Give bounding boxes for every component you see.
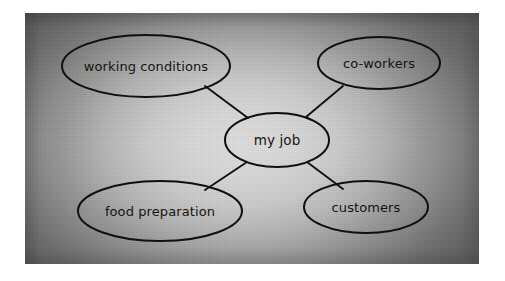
node-co-workers-label: co-workers (343, 56, 415, 71)
node-food-preparation-label: food preparation (105, 204, 215, 219)
node-customers-label: customers (332, 200, 401, 215)
node-food-preparation[interactable]: food preparation (78, 181, 242, 241)
mindmap-photo: working conditions co-workers my job foo… (25, 13, 479, 264)
node-customers[interactable]: customers (304, 181, 428, 233)
node-co-workers[interactable]: co-workers (318, 37, 440, 89)
connector-center-to-co-workers (306, 86, 343, 117)
screenshot-canvas: working conditions co-workers my job foo… (0, 0, 505, 281)
connector-center-to-customers (307, 162, 343, 189)
node-my-job[interactable]: my job (225, 113, 329, 167)
node-working-conditions-label: working conditions (84, 59, 209, 74)
mindmap-diagram: working conditions co-workers my job foo… (25, 13, 479, 264)
connector-center-to-working-conditions (205, 86, 248, 118)
node-working-conditions[interactable]: working conditions (62, 35, 230, 97)
node-my-job-label: my job (254, 132, 301, 148)
connector-center-to-food-preparation (205, 162, 247, 190)
